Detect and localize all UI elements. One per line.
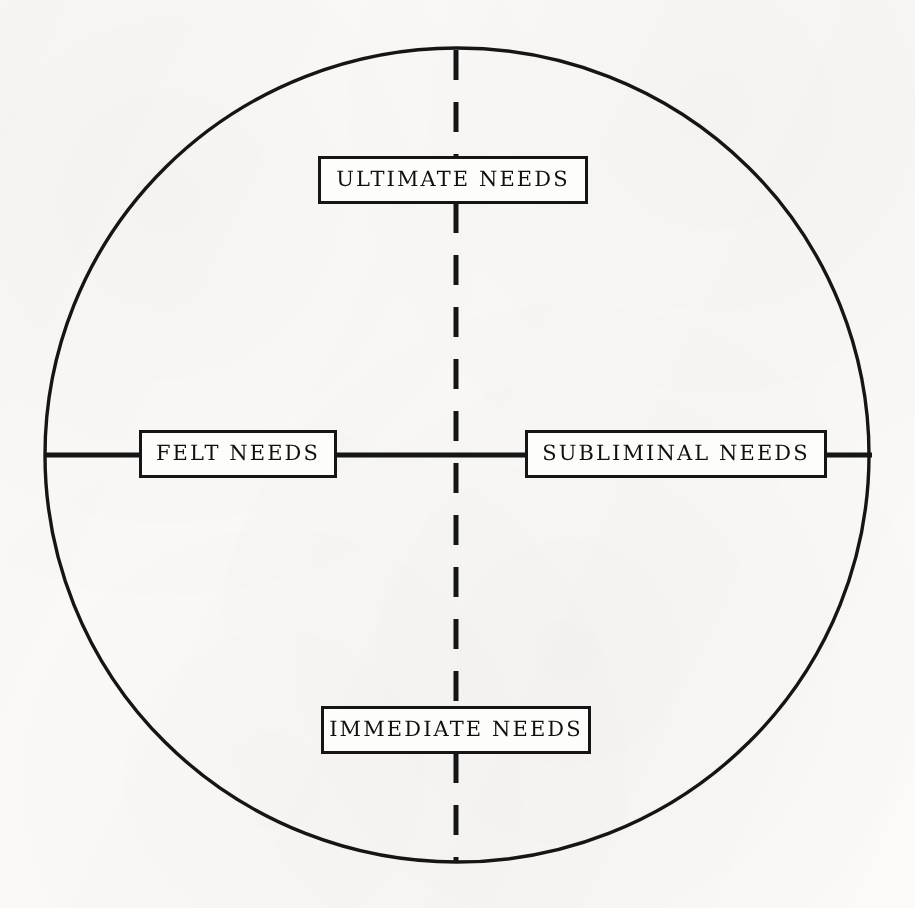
node-ultimate-needs-label: ULTIMATE NEEDS [336,167,569,191]
needs-diagram-figure: ULTIMATE NEEDS FELT NEEDS SUBLIMINAL NEE… [0,0,915,908]
node-felt-needs[interactable]: FELT NEEDS [139,430,337,478]
node-immediate-needs-label: IMMEDIATE NEEDS [329,717,583,741]
node-subliminal-needs-label: SUBLIMINAL NEEDS [542,441,810,465]
node-immediate-needs[interactable]: IMMEDIATE NEEDS [321,706,591,754]
node-felt-needs-label: FELT NEEDS [156,441,320,465]
node-subliminal-needs[interactable]: SUBLIMINAL NEEDS [525,430,827,478]
node-ultimate-needs[interactable]: ULTIMATE NEEDS [318,156,588,204]
